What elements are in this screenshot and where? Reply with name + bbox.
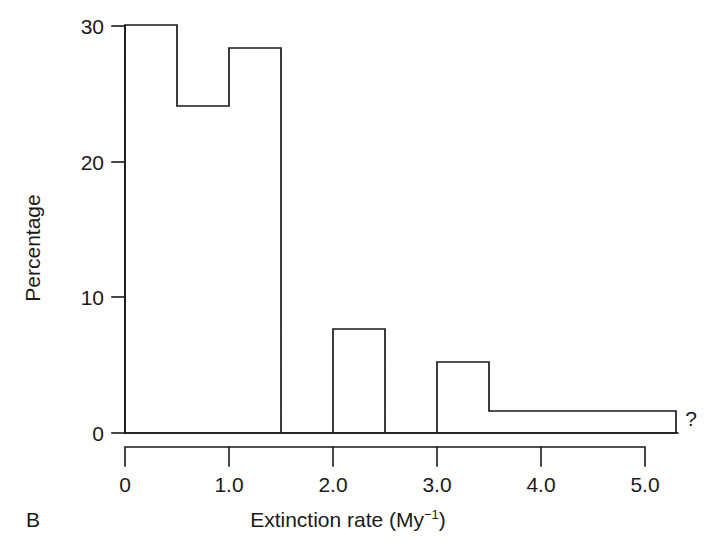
y-tick-label-30: 30 [81,15,104,38]
histogram-chart: 30 20 10 0 Percentage 0 1.0 2.0 3.0 4.0 … [0,0,718,554]
y-axis-ticks [112,26,125,433]
x-tick-label-3: 3.0 [422,473,451,496]
figure-panel-b: 30 20 10 0 Percentage 0 1.0 2.0 3.0 4.0 … [0,0,718,554]
x-axis-title-close: ) [439,508,446,531]
histogram-outline [125,25,676,433]
x-tick-label-1: 1.0 [214,473,243,496]
x-tick-label-2: 2.0 [318,473,347,496]
x-tick-label-5: 5.0 [630,473,659,496]
x-axis-title: Extinction rate (My−1) [250,507,446,531]
y-axis-title: Percentage [21,194,44,301]
panel-label: B [26,508,40,531]
x-tick-label-4: 4.0 [526,473,555,496]
y-tick-label-20: 20 [81,151,104,174]
uncertainty-question-mark: ? [685,407,697,430]
x-axis-tick-rule [125,447,645,466]
x-axis-ticks [229,447,541,466]
x-axis-title-base: Extinction rate (My [250,508,424,531]
y-tick-label-10: 10 [81,286,104,309]
x-tick-label-0: 0 [119,473,131,496]
y-tick-label-0: 0 [92,422,104,445]
x-axis-title-exponent: −1 [424,507,439,522]
